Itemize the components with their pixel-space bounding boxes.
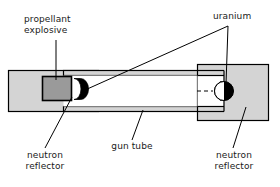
- label-uranium: uranium: [213, 11, 251, 22]
- label-neutron-reflector-left: neutron reflector: [13, 150, 77, 171]
- label-gun-tube: gun tube: [102, 141, 162, 152]
- label-propellant-explosive: propellant explosive: [24, 14, 71, 35]
- label-neutron-reflector-right: neutron reflector: [202, 150, 266, 171]
- leader-gun-tube: [132, 110, 143, 140]
- diagram-page: propellant explosive uranium neutron ref…: [0, 0, 280, 187]
- propellant-charge: [43, 77, 72, 101]
